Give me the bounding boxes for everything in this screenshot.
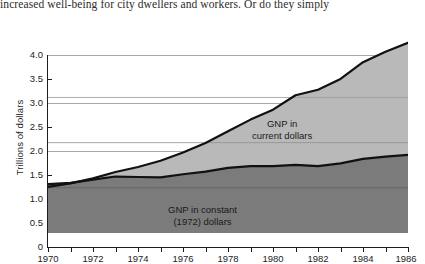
x-tickmark-1986 — [408, 248, 409, 252]
body-text: increased well-being for city dwellers a… — [0, 0, 329, 10]
x-tickmark-1979 — [251, 248, 252, 252]
x-tickmark-1978 — [228, 248, 229, 252]
x-tickmark-1973 — [116, 248, 117, 252]
x-tick-label-1980: 1980 — [253, 253, 293, 264]
x-tickmark-1970 — [48, 248, 49, 252]
y-tick-label-0-5: 0.5 — [0, 217, 48, 229]
x-tick-label-1982: 1982 — [298, 253, 338, 264]
x-tickmark-1976 — [183, 248, 184, 252]
y-tick-label-4-0: 4.0 — [0, 49, 48, 61]
y-tick-label-2-0: 2.0 — [0, 145, 48, 157]
y-tick-label-3-5: 3.5 — [0, 73, 48, 85]
x-tickmark-1980 — [273, 248, 274, 252]
x-tickmark-1971 — [71, 248, 72, 252]
y-axis-line — [47, 55, 48, 248]
x-tick-label-1978: 1978 — [208, 253, 248, 264]
gnp-area-chart: Trillions of dollars 4.0 3.5 3.0 2.5 2.0… — [0, 14, 425, 252]
x-tickmark-1975 — [161, 248, 162, 252]
x-tick-label-1970: 1970 — [28, 253, 68, 264]
x-tick-label-1974: 1974 — [118, 253, 158, 264]
y-tick-label-0: 0 — [0, 241, 48, 253]
y-tick-label-1-5: 1.5 — [0, 169, 48, 181]
y-tick-label-3-0: 3.0 — [0, 97, 48, 109]
body-text-line: increased well-being for city dwellers a… — [0, 0, 425, 10]
series-annotation-constant-line1: GNP in constant — [168, 204, 237, 216]
series-annotation-constant-dollars: GNP in constant (1972) dollars — [168, 204, 237, 227]
series-annotation-current-line2: current dollars — [252, 130, 312, 142]
x-tickmark-1981 — [296, 248, 297, 252]
x-tick-label-1984: 1984 — [343, 253, 383, 264]
series-annotation-current-line1: GNP in — [252, 118, 312, 130]
y-tick-label-1-0: 1.0 — [0, 193, 48, 205]
x-tick-label-1976: 1976 — [163, 253, 203, 264]
y-tick-label-2-5: 2.5 — [0, 121, 48, 133]
x-tickmark-1972 — [93, 248, 94, 252]
x-tickmark-1984 — [363, 248, 364, 252]
x-tickmark-1974 — [138, 248, 139, 252]
x-tickmark-1983 — [341, 248, 342, 252]
x-tickmark-1977 — [206, 248, 207, 252]
x-tick-label-1972: 1972 — [73, 253, 113, 264]
series-annotation-constant-line2: (1972) dollars — [168, 216, 237, 228]
y-axis-title: Trillions of dollars — [14, 68, 25, 208]
x-tickmark-1982 — [318, 248, 319, 252]
x-tick-label-1986: 1986 — [386, 253, 425, 264]
series-annotation-current-dollars: GNP in current dollars — [252, 118, 312, 141]
x-tickmark-1985 — [386, 248, 387, 252]
